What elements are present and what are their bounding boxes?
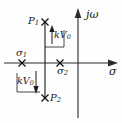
pole-zero-diagram: jω σ P1 P2 σ1 σ2 kV0 kV0 <box>0 0 122 123</box>
annotation-kv0-upper-v: V <box>60 29 67 40</box>
annotation-kv0-upper-sub: 0 <box>67 33 71 41</box>
intercept-label-sigma1-sub: 1 <box>23 51 27 59</box>
pole-label-p2: P2 <box>50 93 61 104</box>
pole-label-p2-sub: 2 <box>57 96 61 104</box>
annotation-kv0-lower-sub: 0 <box>30 79 34 87</box>
intercept-label-sigma1-text: σ <box>16 47 23 58</box>
pole-label-p1-sub: 1 <box>35 19 39 27</box>
intercept-label-sigma2-text: σ <box>57 65 64 76</box>
pole-label-p2-text: P <box>50 92 57 103</box>
kv0-lower-arrow <box>33 71 38 94</box>
imaginary-axis-label: jω <box>86 9 98 20</box>
diagram-canvas <box>0 0 122 123</box>
imaginary-axis-arrowhead <box>75 8 82 18</box>
pole-label-p1-text: P <box>28 15 35 26</box>
annotation-kv0-lower-v: V <box>23 75 30 86</box>
annotation-label-kv0-lower: kV0 <box>17 76 34 87</box>
intercept-label-sigma2-sub: 2 <box>64 69 68 77</box>
real-axis-label: σ <box>109 66 117 77</box>
intercept-label-sigma1: σ1 <box>16 48 27 59</box>
annotation-label-kv0-upper: kV0 <box>54 30 71 41</box>
pole-label-p1: P1 <box>28 16 39 27</box>
intercept-label-sigma2: σ2 <box>57 66 68 77</box>
